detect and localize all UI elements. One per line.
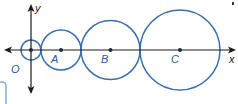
box-fragment — [0, 82, 6, 104]
corner-mark — [232, 2, 234, 5]
x-axis-label: x — [228, 53, 235, 65]
y-axis-label: y — [34, 2, 42, 14]
tangent-circles-diagram: y x O A B C — [0, 0, 238, 104]
label-b: B — [101, 53, 108, 65]
label-a: A — [50, 53, 58, 65]
label-o: O — [11, 63, 20, 75]
point-b — [109, 48, 113, 52]
point-a — [59, 48, 63, 52]
point-o — [29, 48, 33, 52]
label-c: C — [171, 53, 179, 65]
point-c — [178, 48, 182, 52]
